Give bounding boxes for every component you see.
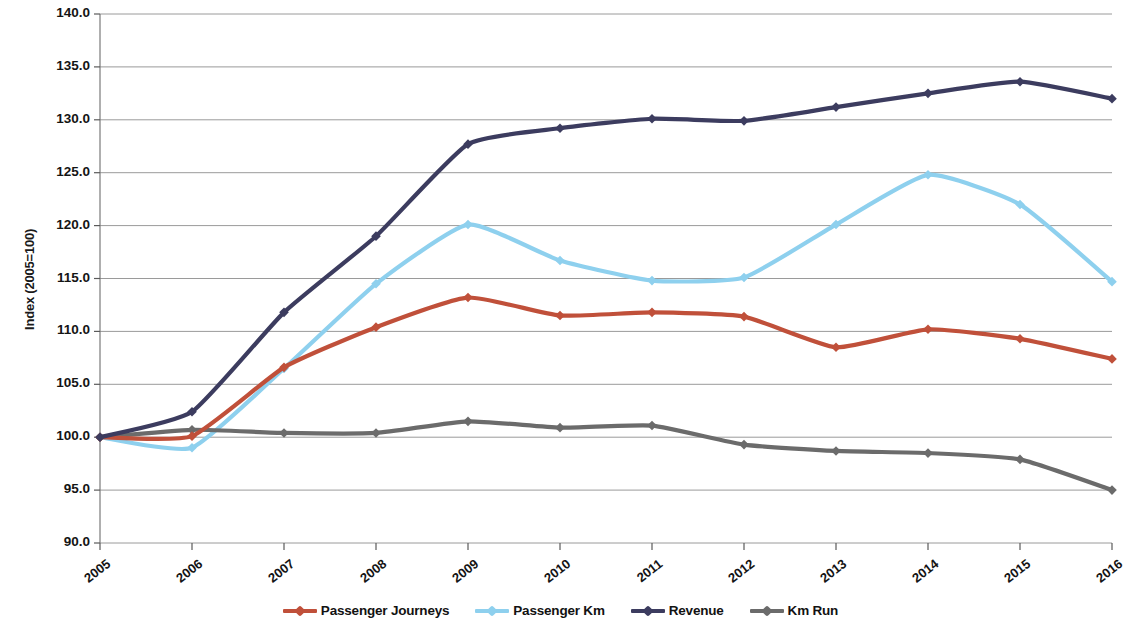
- legend-label: Passenger Journeys: [321, 603, 449, 618]
- data-point-marker: [371, 428, 381, 438]
- data-point-marker: [831, 102, 841, 112]
- series-line: [95, 77, 1117, 442]
- legend-color-swatch: [631, 605, 665, 617]
- chart-legend: Passenger JourneysPassenger KmRevenueKm …: [0, 603, 1121, 618]
- legend-item[interactable]: Revenue: [631, 603, 724, 618]
- legend-item[interactable]: Passenger Journeys: [283, 603, 449, 618]
- series-line: [95, 417, 1117, 495]
- legend-label: Km Run: [788, 603, 839, 618]
- data-point-marker: [831, 342, 841, 352]
- data-point-marker: [95, 432, 105, 442]
- series-path: [100, 175, 1112, 449]
- data-point-marker: [1107, 94, 1117, 104]
- data-point-marker: [647, 421, 657, 431]
- data-point-marker: [1015, 334, 1025, 344]
- data-point-marker: [279, 428, 289, 438]
- series-line: [95, 293, 1117, 442]
- legend-color-swatch: [475, 605, 509, 617]
- data-point-marker: [923, 324, 933, 334]
- data-point-marker: [923, 170, 933, 180]
- data-point-marker: [463, 293, 473, 303]
- legend-label: Passenger Km: [513, 603, 604, 618]
- data-point-marker: [647, 308, 657, 318]
- series-path: [100, 421, 1112, 490]
- data-point-marker: [1107, 354, 1117, 364]
- data-point-marker: [555, 311, 565, 321]
- series-path: [100, 298, 1112, 440]
- data-point-marker: [1015, 455, 1025, 465]
- data-point-marker: [739, 312, 749, 322]
- legend-color-swatch: [750, 605, 784, 617]
- legend-color-swatch: [283, 605, 317, 617]
- data-point-marker: [923, 448, 933, 458]
- data-point-marker: [739, 116, 749, 126]
- data-point-marker: [555, 423, 565, 433]
- data-point-marker: [463, 417, 473, 427]
- data-point-marker: [555, 123, 565, 133]
- legend-label: Revenue: [669, 603, 724, 618]
- data-point-marker: [463, 220, 473, 230]
- legend-item[interactable]: Km Run: [750, 603, 839, 618]
- data-point-marker: [923, 89, 933, 99]
- data-point-marker: [831, 446, 841, 456]
- legend-item[interactable]: Passenger Km: [475, 603, 604, 618]
- data-point-marker: [1015, 77, 1025, 87]
- series-line: [95, 170, 1117, 453]
- data-point-marker: [647, 114, 657, 124]
- data-point-marker: [647, 276, 657, 286]
- data-point-marker: [739, 440, 749, 450]
